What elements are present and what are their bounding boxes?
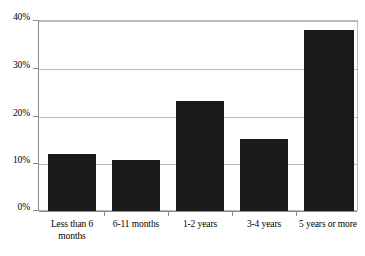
- bar-chart-figure: 40% 30% 20% 10% 0%: [0, 0, 365, 256]
- x-tick-1: [168, 211, 169, 216]
- x-tick-3: [296, 211, 297, 216]
- x-label-3-4-years: 3-4 years: [232, 218, 296, 230]
- x-axis-ticks: [38, 211, 358, 217]
- bar-slot-0: [40, 20, 104, 211]
- y-tick-label-10: 10%: [13, 156, 30, 166]
- x-label-5-years-or-more: 5 years or more: [297, 218, 359, 230]
- y-tick-label-20: 20%: [13, 109, 30, 119]
- bar-slot-4: [296, 20, 360, 211]
- bar-5-years-or-more[interactable]: [304, 30, 354, 211]
- x-tick-2: [232, 211, 233, 216]
- y-tick-label-30: 30%: [13, 61, 30, 71]
- y-axis: 40% 30% 20% 10% 0%: [0, 0, 38, 256]
- y-tick-label-40: 40%: [13, 13, 30, 23]
- x-label-1-2-years: 1-2 years: [168, 218, 232, 230]
- x-label-less-than-6-months: Less than 6 months: [38, 218, 106, 242]
- bar-slot-1: [104, 20, 168, 211]
- bar-less-than-6-months[interactable]: [48, 154, 96, 211]
- bar-slot-3: [232, 20, 296, 211]
- bars-layer: [38, 20, 358, 211]
- x-tick-0: [104, 211, 105, 216]
- bar-3-4-years[interactable]: [240, 139, 288, 211]
- y-tick-label-0: 0%: [18, 203, 30, 213]
- x-label-6-11-months: 6-11 months: [108, 218, 164, 230]
- bar-6-11-months[interactable]: [112, 160, 160, 211]
- bar-1-2-years[interactable]: [176, 101, 224, 211]
- bar-slot-2: [168, 20, 232, 211]
- x-axis-labels: Less than 6 months 6-11 months 1-2 years…: [38, 218, 358, 254]
